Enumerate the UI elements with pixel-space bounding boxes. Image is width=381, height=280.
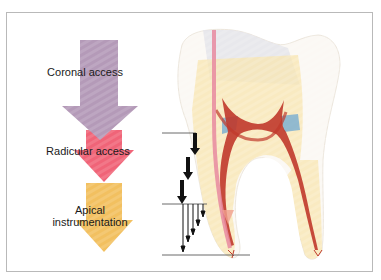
apical-label-line2: instrumentation [40, 216, 140, 228]
coronal-access-label: Coronal access [30, 66, 140, 78]
radicular-access-label: Radicular access [18, 145, 158, 157]
tooth-illustration [176, 29, 342, 262]
apical-label-line1: Apical [40, 204, 140, 216]
apical-instrumentation-label: Apical instrumentation [40, 204, 140, 228]
endodontic-diagram [0, 0, 381, 280]
